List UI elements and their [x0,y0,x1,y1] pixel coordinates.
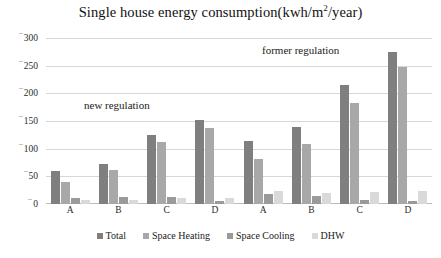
bar-group [94,38,142,204]
legend-label: Space Heating [152,230,210,241]
y-axis-tick-mark [19,144,23,145]
legend-label: Space Cooling [236,230,295,241]
bar-space-cooling[interactable] [408,201,417,204]
bar-dhw[interactable] [370,192,379,204]
y-axis-tick-label: 0 [33,199,38,209]
energy-consumption-bar-chart: Single house energy consumption(kwh/m2/y… [0,0,441,258]
bar-dhw[interactable] [418,191,427,204]
legend-item-total[interactable]: Total [97,230,126,241]
bar-space-cooling[interactable] [215,201,224,204]
x-axis-tick-labels: ABCDABCD [46,205,432,215]
bar-total[interactable] [195,120,204,204]
bar-group [336,38,384,204]
bar-total[interactable] [51,171,60,204]
y-axis-tick-mark [19,116,23,117]
bar-groups [46,38,432,204]
legend-swatch-icon [143,233,149,239]
chart-legend: TotalSpace HeatingSpace CoolingDHW [0,230,441,241]
bar-space-cooling[interactable] [312,196,321,204]
bar-dhw[interactable] [274,191,283,204]
x-axis-tick-label: B [94,205,142,215]
bar-space-heating[interactable] [254,159,263,204]
bar-group [239,38,287,204]
y-axis-tick-labels: 300250200150100500 [0,38,42,204]
bar-total[interactable] [147,135,156,204]
bar-total[interactable] [388,52,397,204]
bar-space-heating[interactable] [302,144,311,204]
y-axis-tick-mark [19,88,23,89]
bar-space-heating[interactable] [350,103,359,204]
bar-group [143,38,191,204]
bar-space-heating[interactable] [109,170,118,204]
bar-dhw[interactable] [129,200,138,204]
x-axis-tick-label: A [239,205,287,215]
bar-space-cooling[interactable] [167,197,176,204]
y-axis-tick-mark [24,171,28,172]
bar-group [287,38,335,204]
y-axis-tick-mark [28,199,32,200]
bar-total[interactable] [99,164,108,204]
legend-item-space-cooling[interactable]: Space Cooling [227,230,295,241]
bar-space-heating[interactable] [398,67,407,204]
bar-space-cooling[interactable] [264,194,273,204]
x-axis-tick-label: C [336,205,384,215]
y-axis-tick-mark [19,33,23,34]
y-axis-tick-label: 150 [24,116,38,126]
x-axis-tick-label: B [287,205,335,215]
chart-title-tail: /year) [328,4,362,20]
bar-group [191,38,239,204]
bar-dhw[interactable] [225,198,234,204]
y-axis-tick-label: 50 [29,171,39,181]
x-axis-tick-label: C [143,205,191,215]
bar-group [384,38,432,204]
chart-title: Single house energy consumption(kwh/m2/y… [0,4,441,21]
y-axis-tick-label: 100 [24,144,38,154]
bar-total[interactable] [292,127,301,204]
y-axis-tick-label: 250 [24,61,38,71]
legend-swatch-icon [312,233,318,239]
y-axis-tick-mark [19,61,23,62]
bar-dhw[interactable] [322,193,331,204]
bar-space-heating[interactable] [157,142,166,204]
legend-label: DHW [321,230,345,241]
legend-swatch-icon [97,233,103,239]
legend-swatch-icon [227,233,233,239]
legend-item-space-heating[interactable]: Space Heating [143,230,210,241]
y-axis-tick-label: 300 [24,33,38,43]
bar-total[interactable] [340,85,349,204]
bar-group [46,38,94,204]
chart-title-main: Single house energy consumption(kwh/m [79,4,324,20]
x-axis-tick-label: D [191,205,239,215]
x-axis-tick-label: D [384,205,432,215]
bar-space-cooling[interactable] [71,198,80,204]
bar-total[interactable] [244,141,253,204]
bar-space-cooling[interactable] [360,200,369,204]
annotation-former-regulation: former regulation [262,44,339,56]
legend-label: Total [106,230,126,241]
bar-dhw[interactable] [177,198,186,204]
bar-space-heating[interactable] [205,128,214,204]
y-axis-tick-label: 200 [24,88,38,98]
legend-item-dhw[interactable]: DHW [312,230,345,241]
bar-space-heating[interactable] [61,182,70,204]
bar-dhw[interactable] [81,200,90,204]
bar-space-cooling[interactable] [119,197,128,204]
annotation-new-regulation: new regulation [84,99,150,111]
x-axis-tick-label: A [46,205,94,215]
